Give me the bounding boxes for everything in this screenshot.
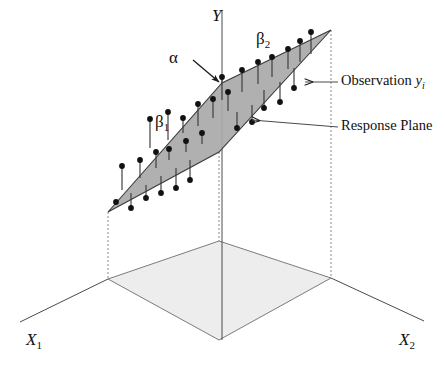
- axis-label-x2: X2: [399, 330, 415, 351]
- observation-point: [291, 85, 297, 91]
- observation-point: [143, 195, 149, 201]
- regression-plane-diagram: [0, 0, 445, 367]
- observation-point: [210, 96, 216, 102]
- observation-point: [153, 149, 159, 155]
- observation-point: [277, 99, 283, 105]
- observation-point: [166, 146, 172, 152]
- parameter-label-alpha: α: [169, 48, 178, 68]
- observation-point: [308, 29, 314, 35]
- parameter-label-beta2: β2: [256, 29, 270, 50]
- observation-point: [199, 130, 205, 136]
- x1-axis: [20, 279, 108, 322]
- alpha-leader: [193, 60, 219, 82]
- observation-point: [297, 38, 303, 44]
- observation-point: [180, 115, 186, 121]
- observation-point: [261, 105, 267, 111]
- floor-plane: [108, 241, 331, 340]
- response-plane-leader: [252, 120, 338, 127]
- observation-point: [225, 89, 231, 95]
- observation-point: [158, 190, 164, 196]
- observation-point: [113, 199, 119, 205]
- observation-point: [147, 116, 153, 122]
- observation-point: [183, 138, 189, 144]
- observation-point: [187, 177, 193, 183]
- callout-observation: Observation yi: [341, 72, 425, 91]
- observation-point: [137, 157, 143, 163]
- observation-point: [173, 185, 179, 191]
- axis-label-y: Y: [212, 6, 221, 26]
- figure-canvas: Y X1 X2 α β1 β2 Observation yi Response …: [0, 0, 445, 367]
- axis-lines: [20, 10, 424, 340]
- observation-point: [195, 101, 201, 107]
- observation-point: [234, 125, 240, 131]
- observation-point: [219, 74, 225, 80]
- parameter-label-beta1: β1: [155, 112, 169, 133]
- x2-axis: [331, 278, 424, 321]
- observation-point: [239, 67, 245, 73]
- observation-point: [128, 205, 134, 211]
- axis-label-x1: X1: [26, 330, 42, 351]
- observation-point: [119, 163, 125, 169]
- callout-response-plane: Response Plane: [341, 117, 432, 134]
- observation-point: [285, 46, 291, 52]
- observation-point: [255, 59, 261, 65]
- observation-point: [269, 54, 275, 60]
